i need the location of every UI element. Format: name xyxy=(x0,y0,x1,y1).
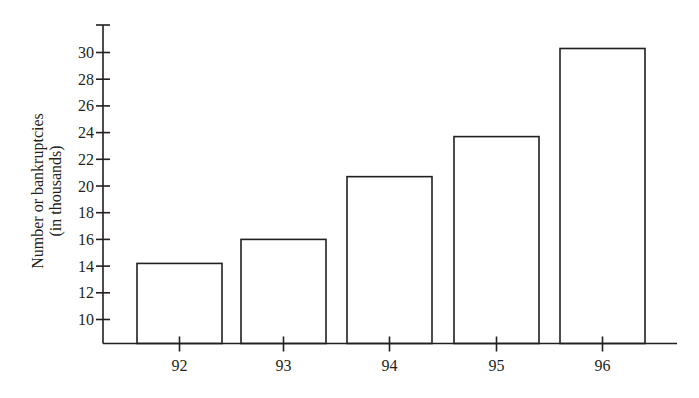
y-tick-label-26: 26 xyxy=(78,97,94,114)
y-tick-label-12: 12 xyxy=(78,284,94,301)
bar-93 xyxy=(241,239,326,343)
chart-canvas: Number or bankruptcies (in thousands) 10… xyxy=(0,0,699,398)
bar-95 xyxy=(454,137,539,344)
x-tick-label-94: 94 xyxy=(382,357,398,374)
y-axis-label-line-2: (in thousands) xyxy=(47,145,65,236)
y-tick-label-16: 16 xyxy=(78,231,94,248)
x-tick-label-92: 92 xyxy=(172,357,188,374)
y-axis: 1012141618202224262830 xyxy=(78,25,110,344)
x-tick-label-93: 93 xyxy=(276,357,292,374)
bar-94 xyxy=(347,177,432,344)
bar-92 xyxy=(137,263,222,343)
bar-chart: Number or bankruptcies (in thousands) 10… xyxy=(0,0,699,398)
y-tick-label-30: 30 xyxy=(78,44,94,61)
y-tick-label-10: 10 xyxy=(78,311,94,328)
y-tick-label-22: 22 xyxy=(78,151,94,168)
y-tick-label-24: 24 xyxy=(78,124,94,141)
bars xyxy=(137,48,645,343)
y-tick-label-14: 14 xyxy=(78,258,94,275)
y-tick-label-28: 28 xyxy=(78,71,94,88)
y-axis-label: Number or bankruptcies (in thousands) xyxy=(29,113,65,269)
y-tick-label-20: 20 xyxy=(78,178,94,195)
y-tick-label-18: 18 xyxy=(78,204,94,221)
y-axis-label-line-1: Number or bankruptcies xyxy=(29,113,47,269)
bar-96 xyxy=(560,48,645,343)
x-tick-label-95: 95 xyxy=(489,357,505,374)
x-tick-label-96: 96 xyxy=(595,357,611,374)
